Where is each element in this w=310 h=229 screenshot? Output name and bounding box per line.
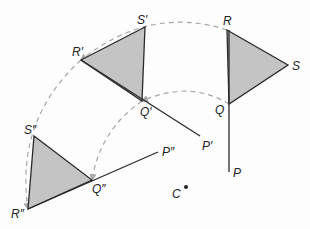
label-P-double-prime: P″ bbox=[162, 145, 175, 159]
label-P-prime: P′ bbox=[202, 139, 213, 153]
triangle-RSQ-double-prime bbox=[28, 136, 92, 209]
arc-Q-prime-to-Q-double-prime bbox=[92, 101, 142, 180]
label-R-prime: R′ bbox=[72, 45, 84, 59]
label-R-double-prime: R″ bbox=[11, 207, 25, 221]
label-S-prime: S′ bbox=[137, 13, 148, 27]
label-C: C bbox=[172, 187, 181, 201]
label-P: P bbox=[233, 166, 241, 180]
label-R: R bbox=[223, 14, 232, 28]
rotation-diagram: R S Q P R′ S′ Q′ P′ R″ S″ Q″ P″ C bbox=[0, 0, 310, 229]
triangle-RSQ-prime bbox=[81, 27, 145, 101]
label-S: S bbox=[292, 59, 300, 73]
triangle-RSQ bbox=[227, 30, 288, 104]
label-S-double-prime: S″ bbox=[24, 123, 37, 137]
center-point bbox=[184, 185, 188, 189]
label-Q: Q bbox=[215, 103, 224, 117]
label-Q-double-prime: Q″ bbox=[92, 182, 106, 196]
label-Q-prime: Q′ bbox=[140, 105, 152, 119]
diagram-canvas: R S Q P R′ S′ Q′ P′ R″ S″ Q″ P″ C bbox=[0, 0, 310, 229]
